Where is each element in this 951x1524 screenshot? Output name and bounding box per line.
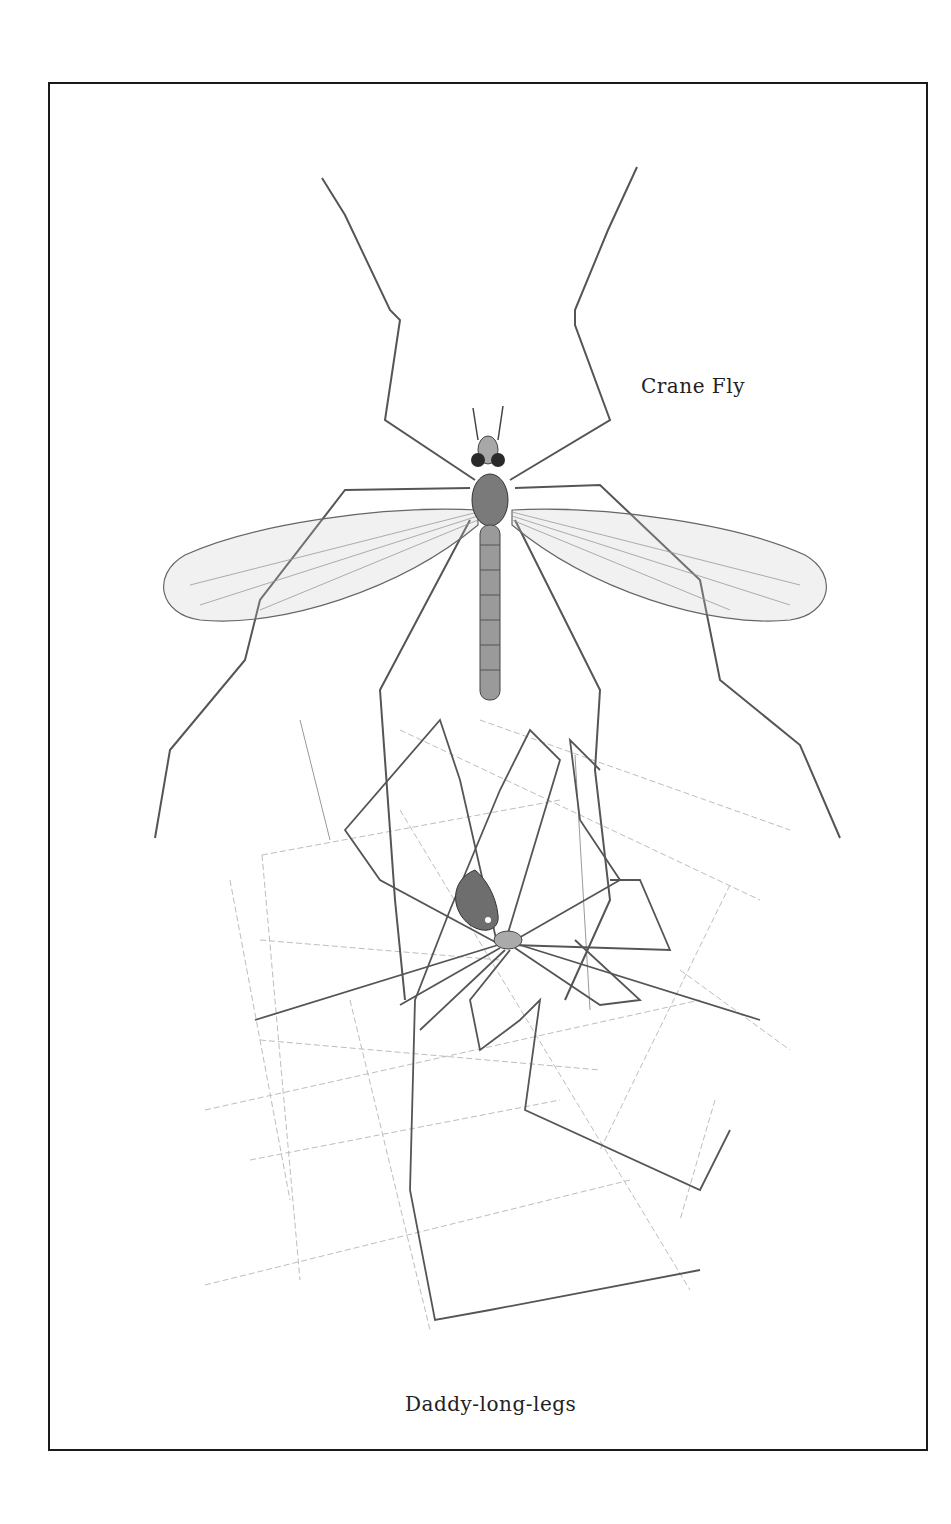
illustration-art bbox=[0, 0, 951, 1524]
crane-fly-body bbox=[471, 406, 508, 700]
spider-legs bbox=[255, 720, 760, 1320]
spider-body bbox=[456, 870, 522, 949]
crane-fly-label: Crane Fly bbox=[641, 374, 745, 398]
daddy-long-legs-label: Daddy-long-legs bbox=[405, 1392, 576, 1416]
spider-web bbox=[205, 720, 790, 1330]
